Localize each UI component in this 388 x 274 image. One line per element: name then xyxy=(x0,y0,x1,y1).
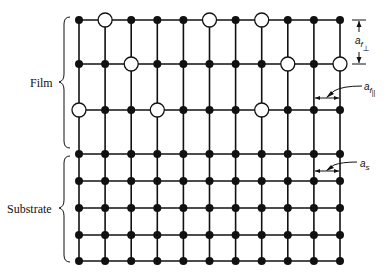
film-atom-filled xyxy=(310,60,318,68)
substrate-atom-filled xyxy=(336,204,344,212)
film-atom-open xyxy=(98,13,112,27)
substrate-atom-filled xyxy=(179,177,187,185)
substrate-atom-filled xyxy=(179,231,187,239)
substrate-atom-filled xyxy=(153,204,161,212)
substrate-atom-filled xyxy=(153,177,161,185)
film-atom-filled xyxy=(179,16,187,24)
substrate-atom-filled xyxy=(284,177,292,185)
substrate-atom-filled xyxy=(127,257,135,265)
substrate-atom-filled xyxy=(153,257,161,265)
substrate-atom-filled xyxy=(127,150,135,158)
substrate-atom-filled xyxy=(75,177,83,185)
substrate-label: Substrate xyxy=(7,202,52,216)
substrate-atom-filled xyxy=(101,257,109,265)
substrate-atom-filled xyxy=(310,204,318,212)
film-atom-open xyxy=(72,103,86,117)
substrate-atom-filled xyxy=(310,150,318,158)
film-atom-filled xyxy=(101,60,109,68)
substrate-atom-filled xyxy=(284,257,292,265)
substrate-atom-filled xyxy=(179,257,187,265)
substrate-atom-filled xyxy=(284,150,292,158)
film-atom-filled xyxy=(127,106,135,114)
film-atom-filled xyxy=(258,60,266,68)
substrate-brace xyxy=(59,156,70,262)
film-atom-filled xyxy=(179,60,187,68)
film-atom-filled xyxy=(153,16,161,24)
substrate-atom-filled xyxy=(206,231,214,239)
substrate-atom-filled xyxy=(258,257,266,265)
substrate-atom-filled xyxy=(153,150,161,158)
substrate-atom-filled xyxy=(258,150,266,158)
substrate-atom-filled xyxy=(232,257,240,265)
a-s-dimension: as xyxy=(315,158,370,173)
substrate-atom-filled xyxy=(232,177,240,185)
film-atom-filled xyxy=(101,106,109,114)
substrate-atom-filled xyxy=(232,204,240,212)
film-atom-open xyxy=(150,103,164,117)
substrate-atom-filled xyxy=(206,150,214,158)
substrate-atom-filled xyxy=(284,204,292,212)
substrate-atom-filled xyxy=(75,204,83,212)
substrate-atom-filled xyxy=(258,231,266,239)
substrate-atom-filled xyxy=(336,177,344,185)
film-atom-filled xyxy=(310,106,318,114)
film-atom-filled xyxy=(75,60,83,68)
film-atom-open xyxy=(203,13,217,27)
substrate-atom-filled xyxy=(310,231,318,239)
substrate-atom-filled xyxy=(206,177,214,185)
substrate-atom-filled xyxy=(258,177,266,185)
film-atom-filled xyxy=(336,16,344,24)
substrate-atom-filled xyxy=(127,177,135,185)
substrate-atom-filled xyxy=(127,231,135,239)
film-atom-filled xyxy=(206,60,214,68)
film-atom-open xyxy=(255,103,269,117)
lattice-diagram: Film Substrate af⊥ af|| as xyxy=(0,0,388,274)
substrate-atom-filled xyxy=(153,231,161,239)
substrate-atom-filled xyxy=(75,150,83,158)
substrate-atom-filled xyxy=(101,231,109,239)
substrate-atom-filled xyxy=(336,231,344,239)
substrate-atom-filled xyxy=(206,257,214,265)
substrate-atom-filled xyxy=(258,204,266,212)
substrate-atom-filled xyxy=(101,150,109,158)
substrate-atom-filled xyxy=(232,150,240,158)
film-atom-filled xyxy=(232,16,240,24)
substrate-atom-filled xyxy=(127,204,135,212)
substrate-atom-filled xyxy=(206,204,214,212)
film-atom-filled xyxy=(179,106,187,114)
film-atom-filled xyxy=(310,16,318,24)
film-atom-filled xyxy=(127,16,135,24)
svg-text:as: as xyxy=(360,158,370,172)
film-brace xyxy=(59,17,70,148)
film-atom-filled xyxy=(206,106,214,114)
substrate-atom-filled xyxy=(284,231,292,239)
film-atom-filled xyxy=(75,16,83,24)
substrate-atom-filled xyxy=(310,257,318,265)
film-atom-filled xyxy=(336,106,344,114)
lattice-lines xyxy=(79,20,340,261)
film-atom-open xyxy=(124,57,138,71)
substrate-atom-filled xyxy=(336,150,344,158)
substrate-atom-filled xyxy=(75,257,83,265)
svg-text:af⊥: af⊥ xyxy=(355,35,370,53)
substrate-atom-filled xyxy=(232,231,240,239)
a-f-perp-dimension: af⊥ xyxy=(352,20,370,64)
film-atom-filled xyxy=(232,106,240,114)
substrate-atom-filled xyxy=(101,177,109,185)
film-atom-open xyxy=(281,57,295,71)
substrate-atom-filled xyxy=(179,150,187,158)
substrate-atom-filled xyxy=(179,204,187,212)
film-atom-filled xyxy=(284,106,292,114)
svg-text:af||: af|| xyxy=(364,81,376,97)
substrate-atom-filled xyxy=(310,177,318,185)
substrate-atom-filled xyxy=(101,204,109,212)
film-atom-open xyxy=(255,13,269,27)
substrate-atom-filled xyxy=(336,257,344,265)
a-f-par-dimension: af|| xyxy=(315,81,376,100)
film-atom-filled xyxy=(153,60,161,68)
substrate-atom-filled xyxy=(75,231,83,239)
film-atom-filled xyxy=(232,60,240,68)
film-label: Film xyxy=(30,76,53,90)
film-atom-open xyxy=(333,57,347,71)
film-atom-filled xyxy=(284,16,292,24)
